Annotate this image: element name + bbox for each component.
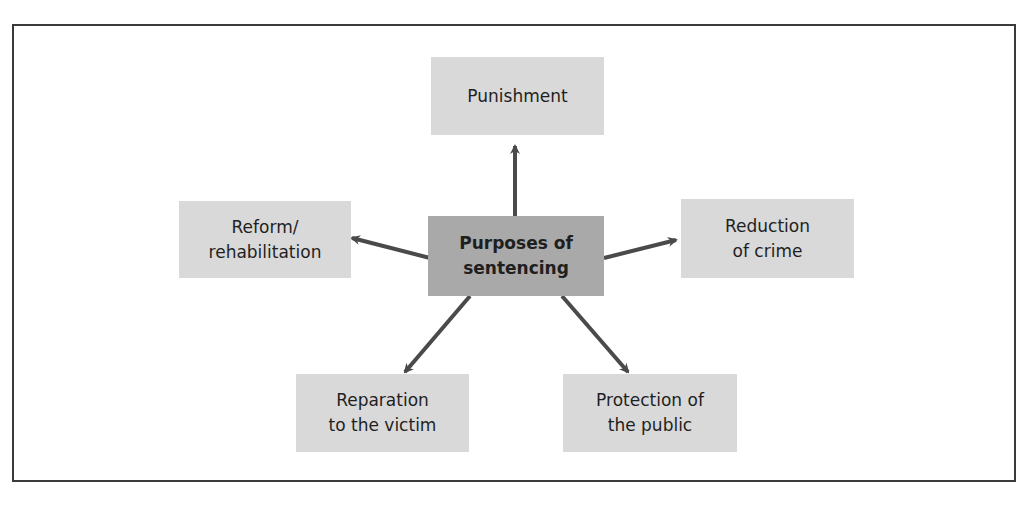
arrow-to-reform xyxy=(352,238,430,258)
center-label-line1: Purposes of xyxy=(459,233,573,253)
node-label-line1: Reform/ xyxy=(232,217,299,237)
node-label-line1: Protection of xyxy=(596,390,704,410)
node-label-line2: of crime xyxy=(733,241,803,261)
node-label-line1: Reduction xyxy=(725,216,810,236)
arrow-to-protection xyxy=(562,296,628,372)
arrow-to-reparation xyxy=(405,296,470,372)
node-punishment: Punishment xyxy=(431,57,604,135)
node-reduction: Reductionof crime xyxy=(681,199,854,278)
node-label: Punishment xyxy=(467,86,567,106)
center-label-line2: sentencing xyxy=(463,258,569,278)
center-node: Purposes ofsentencing xyxy=(428,216,604,296)
node-reparation: Reparationto the victim xyxy=(296,374,469,452)
node-label-line2: rehabilitation xyxy=(209,242,322,262)
arrow-to-reduction xyxy=(604,240,676,258)
node-protection: Protection ofthe public xyxy=(563,374,737,452)
node-label-line2: to the victim xyxy=(329,415,437,435)
node-reform: Reform/rehabilitation xyxy=(179,201,351,278)
node-label-line1: Reparation xyxy=(336,390,429,410)
node-label-line2: the public xyxy=(608,415,692,435)
